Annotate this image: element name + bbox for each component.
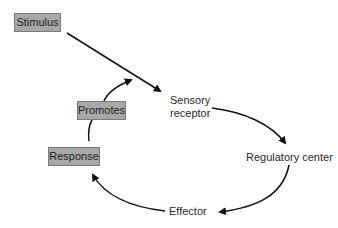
arrow-effector-to-response	[93, 175, 165, 211]
response-box: Response	[48, 147, 100, 166]
effector-label: Effector	[169, 205, 207, 218]
sensory-receptor-label: Sensory receptor	[170, 94, 210, 120]
feedback-loop-diagram: Stimulus Sensory receptor Regulatory cen…	[0, 0, 338, 228]
regulatory-center-label: Regulatory center	[246, 151, 333, 164]
response-label: Response	[49, 150, 99, 162]
stimulus-box: Stimulus	[14, 13, 61, 32]
promotes-box: Promotes	[77, 101, 126, 120]
arrow-receptor-to-regulatory	[212, 108, 285, 143]
arrows-layer	[0, 0, 338, 228]
arrow-promotes-to-pathway	[104, 80, 131, 101]
arrow-stimulus-to-receptor	[67, 33, 160, 91]
arrow-response-to-promotes	[89, 120, 92, 141]
promotes-label: Promotes	[78, 104, 125, 116]
arrow-regulatory-to-effector	[220, 165, 289, 212]
stimulus-label: Stimulus	[16, 16, 58, 28]
